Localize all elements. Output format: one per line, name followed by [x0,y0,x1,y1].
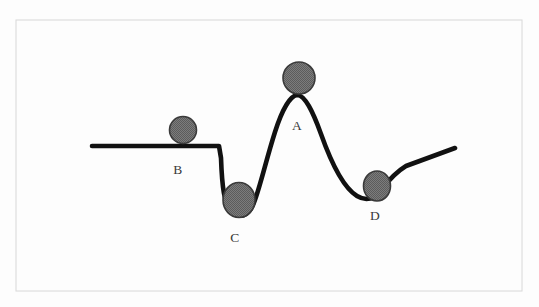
ball-label-d: D [370,209,380,223]
ball-c [223,183,255,218]
ball-label-c: C [230,231,239,245]
ball-b [170,117,197,144]
figure-container: A B C D [0,0,539,307]
ball-d [364,171,391,201]
ball-label-a: A [292,119,302,133]
ball-a [283,62,315,94]
ball-label-b: B [173,163,182,177]
terrain-curve [92,95,455,216]
diagram-canvas [0,0,539,307]
